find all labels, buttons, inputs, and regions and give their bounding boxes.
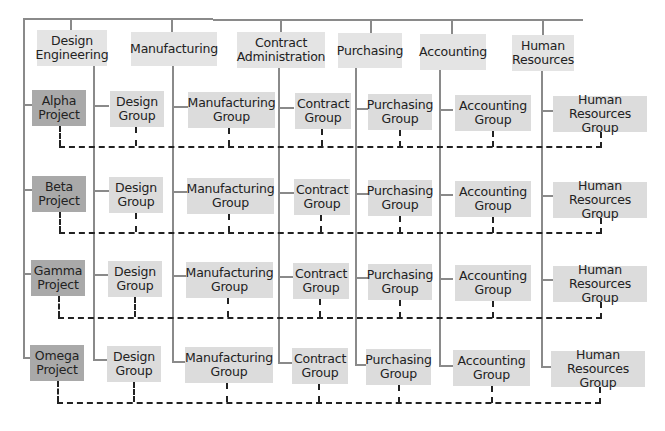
group-label: Design Group [115,181,157,209]
project-dashed-line [59,232,602,234]
dept-drop-line [451,20,453,34]
group-label: Human Resources Group [553,93,647,135]
gamma-purchasing-group: Purchasing Group [368,264,432,300]
alpha-purchasing-group: Purchasing Group [368,94,432,130]
dept-manufacturing: Manufacturing [131,32,217,66]
gamma-manufacturing-group: Manufacturing Group [186,262,273,298]
project-label: Beta Project [38,180,79,208]
dept-drop-line [280,19,282,32]
project-dashed-drop [228,214,230,232]
row-connector-line [172,106,188,108]
project-dashed-drop [227,298,229,317]
row-connector-line [278,107,294,109]
project-dashed-drop [398,385,400,403]
row-connector-line [93,190,109,192]
project-dashed-line [59,146,602,148]
project-trunk-line [23,18,25,358]
project-dashed-drop [226,383,228,402]
row-connector-line [278,192,294,194]
group-label: Contract Group [295,267,347,295]
project-label: Gamma Project [34,264,82,292]
dept-drop-line [171,18,173,32]
dept-label: Purchasing [337,44,403,58]
group-label: Design Group [113,350,155,378]
omega-accounting-group: Accounting Group [453,350,530,386]
row-connector-line [439,365,453,367]
dept-drop-line [542,21,544,35]
alpha-contract-group: Contract Group [295,93,351,129]
group-label: Accounting Group [459,269,527,297]
group-label: Accounting Group [459,99,527,127]
dept-human-resources: Human Resources [512,35,574,71]
matrix-org-chart: Design Engineering Manufacturing Contrac… [0,0,665,431]
row-connector-line [439,278,453,280]
group-label: Purchasing Group [365,353,431,381]
dept-vertical-line [439,69,441,367]
row-connector-line [541,110,553,112]
alpha-human-resources-group: Human Resources Group [553,96,647,132]
group-label: Purchasing Group [367,268,433,296]
group-label: Contract Group [296,183,348,211]
project-dashed-drop [58,296,60,317]
gamma-human-resources-group: Human Resources Group [553,266,647,302]
gamma-accounting-group: Accounting Group [455,265,531,301]
dept-accounting: Accounting [420,34,486,70]
omega-purchasing-group: Purchasing Group [366,349,431,385]
project-dashed-drop [318,384,320,402]
omega-manufacturing-group: Manufacturing Group [185,347,273,383]
omega-contract-group: Contract Group [292,348,348,384]
group-label: Manufacturing Group [187,182,275,210]
row-connector-line [541,279,553,281]
alpha-accounting-group: Accounting Group [455,95,531,131]
dept-label: Design Engineering [36,34,109,62]
project-dashed-drop [135,213,137,232]
project-label: Omega Project [35,349,79,377]
row-connector-line [439,109,453,111]
project-dashed-drop [492,217,494,233]
project-dashed-drop [57,381,59,402]
dept-vertical-line [541,70,543,368]
project-dashed-drop [59,212,61,232]
beta-contract-group: Contract Group [294,179,350,215]
project-dashed-line [58,317,602,319]
omega-human-resources-group: Human Resources Group [551,351,645,387]
group-label: Human Resources Group [553,179,647,221]
row-connector-line [439,194,453,196]
project-dashed-drop [135,127,137,146]
beta-human-resources-group: Human Resources Group [553,182,647,218]
group-label: Human Resources Group [553,263,647,305]
beta-manufacturing-group: Manufacturing Group [187,178,274,214]
project-dashed-drop [600,302,602,319]
dept-drop-line [370,20,372,33]
group-label: Purchasing Group [367,184,433,212]
group-label: Accounting Group [459,185,527,213]
dept-label: Manufacturing [130,42,218,56]
project-gamma: Gamma Project [31,260,85,296]
dept-drop-line [70,18,72,30]
project-alpha: Alpha Project [32,90,86,126]
project-dashed-drop [320,215,322,232]
dept-label: Accounting [419,45,487,59]
row-connector-line [93,105,109,107]
project-dashed-drop [134,297,136,317]
top-connector-line [213,19,583,21]
project-dashed-drop [399,300,401,318]
dept-label: Human Resources [512,39,574,67]
project-dashed-drop [599,387,601,404]
dept-vertical-line [278,67,280,364]
dept-vertical-line [93,65,95,360]
project-dashed-drop [321,129,323,146]
project-dashed-drop [133,382,135,402]
group-label: Design Group [116,95,158,123]
gamma-contract-group: Contract Group [293,263,349,299]
project-dashed-drop [600,218,602,234]
beta-accounting-group: Accounting Group [455,181,531,217]
group-label: Manufacturing Group [185,351,273,379]
row-connector-line [541,195,553,197]
omega-design-group: Design Group [107,346,161,382]
project-dashed-drop [319,299,321,317]
group-label: Design Group [114,265,156,293]
project-dashed-drop [492,301,494,318]
project-label: Alpha Project [38,94,79,122]
group-label: Contract Group [297,97,349,125]
